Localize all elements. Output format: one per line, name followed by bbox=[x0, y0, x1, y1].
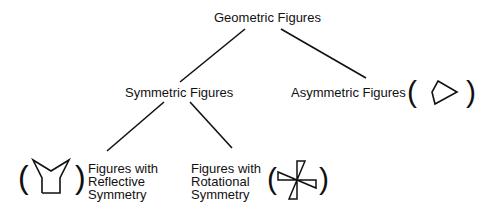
reflective-paren-close: ) bbox=[75, 159, 86, 196]
edge-symmetric-reflective bbox=[107, 102, 164, 151]
node-rotational-line-3: Symmetry bbox=[191, 188, 261, 201]
rotational-paren-open: ( bbox=[267, 162, 277, 196]
node-geometric-figures: Geometric Figures bbox=[214, 11, 321, 25]
reflective-symmetric-shape-icon bbox=[33, 160, 69, 193]
node-symmetric-figures: Symmetric Figures bbox=[125, 86, 233, 100]
reflective-paren-open: ( bbox=[18, 159, 29, 196]
edge-root-asymmetric bbox=[281, 29, 366, 78]
node-reflective-symmetry: Figures with Reflective Symmetry bbox=[88, 162, 158, 201]
asymmetric-paren-close: ) bbox=[466, 75, 476, 109]
rotational-paren-close: ) bbox=[319, 162, 329, 196]
node-rotational-symmetry: Figures with Rotational Symmetry bbox=[191, 162, 261, 201]
edge-root-symmetric bbox=[180, 29, 245, 82]
edge-symmetric-rotational bbox=[190, 102, 232, 148]
node-asymmetric-figures: Asymmetric Figures bbox=[291, 86, 406, 100]
pinwheel-shape-icon bbox=[278, 161, 316, 199]
node-reflective-line-3: Symmetry bbox=[88, 188, 158, 201]
asymmetric-paren-open: ( bbox=[407, 75, 417, 109]
irregular-pentagon-icon bbox=[432, 81, 457, 104]
